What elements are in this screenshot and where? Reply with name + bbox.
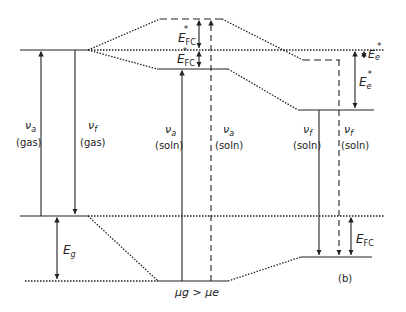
label-nu-a-soln: νa — [165, 123, 176, 138]
label-nu-a-soln-medium: (soln) — [155, 140, 183, 151]
label-nu-a-gas: νa — [25, 119, 36, 134]
connector-bottom-to-emission-ground — [228, 257, 301, 281]
label-mu-comparison: μg > μe — [174, 286, 219, 299]
label-nu-f-soln: νf — [303, 123, 313, 138]
connector-gas-to-frozen — [88, 19, 160, 50]
label-eg: Eg — [63, 243, 76, 259]
energy-level-diagram: νa (gas) νf (gas) νa (soln) νa (soln) νf… — [0, 0, 406, 312]
figure-caption: (b) — [338, 273, 352, 284]
label-efc-star-upper: EFC* — [178, 24, 196, 47]
connector-frozen-to-emission — [222, 19, 303, 60]
label-ee-star-large: Ee* — [359, 69, 373, 91]
label-nu-f-soln-2: νf — [344, 123, 354, 138]
label-nu-f-gas: νf — [88, 119, 98, 134]
label-efc: EFC — [356, 232, 374, 248]
label-nu-a-soln-2-medium: (soln) — [215, 140, 243, 151]
label-nu-a-soln-2: νa — [223, 123, 234, 138]
label-nu-f-gas-medium: (gas) — [80, 137, 106, 148]
connector-gas-to-soln — [88, 50, 157, 69]
label-nu-a-gas-medium: (gas) — [16, 137, 42, 148]
label-nu-f-soln-medium: (soln) — [293, 140, 321, 151]
connector-soln-to-emission — [228, 69, 298, 110]
connector-ground-to-bottom — [88, 216, 158, 281]
label-efc-star-lower: EFC* — [177, 46, 195, 68]
label-ee-star-small: Ee* — [368, 41, 382, 62]
label-nu-f-soln-2-medium: (soln) — [341, 140, 369, 151]
